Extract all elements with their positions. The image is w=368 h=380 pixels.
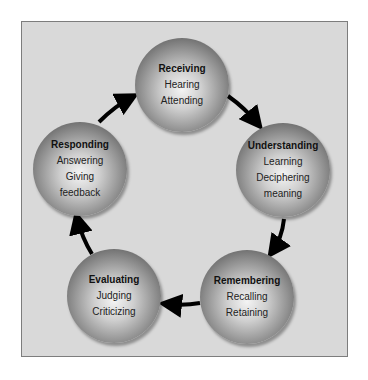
node-line: Judging xyxy=(96,288,131,304)
arrow-responding-to-receiving xyxy=(99,97,132,122)
arrow-evaluating-to-responding xyxy=(77,218,92,254)
arrow-remembering-to-evaluating xyxy=(166,303,200,305)
node-line: Hearing xyxy=(164,77,199,93)
node-line: feedback xyxy=(60,185,101,201)
node-line: Attending xyxy=(161,93,203,109)
node-understanding: Understanding Learning Deciphering meani… xyxy=(236,123,330,217)
node-line: meaning xyxy=(264,186,302,202)
node-title: Responding xyxy=(51,137,109,153)
arrow-understanding-to-remembering xyxy=(272,219,284,252)
node-remembering: Remembering Recalling Retaining xyxy=(200,250,294,344)
node-line: Deciphering xyxy=(256,170,309,186)
node-line: Retaining xyxy=(226,305,268,321)
node-title: Receiving xyxy=(158,61,205,77)
node-responding: Responding Answering Giving feedback xyxy=(33,122,127,216)
arrow-receiving-to-understanding xyxy=(228,96,258,124)
node-receiving: Receiving Hearing Attending xyxy=(135,38,229,132)
node-title: Evaluating xyxy=(89,272,140,288)
node-title: Understanding xyxy=(248,138,319,154)
node-line: Learning xyxy=(264,154,303,170)
node-line: Giving xyxy=(66,169,94,185)
node-evaluating: Evaluating Judging Criticizing xyxy=(67,249,161,343)
node-line: Recalling xyxy=(226,289,267,305)
node-line: Answering xyxy=(57,153,104,169)
node-line: Criticizing xyxy=(92,304,135,320)
node-title: Remembering xyxy=(214,273,281,289)
